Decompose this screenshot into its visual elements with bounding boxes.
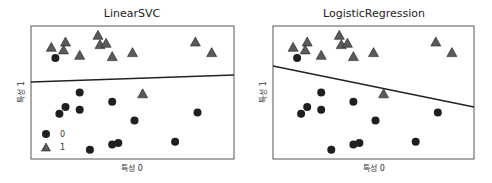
point-class-0 <box>434 109 442 117</box>
point-class-0 <box>327 146 335 154</box>
point-class-0 <box>412 138 420 146</box>
point-class-1 <box>46 42 56 51</box>
point-class-1 <box>379 89 389 98</box>
point-class-0 <box>317 106 325 114</box>
point-class-1 <box>101 38 111 47</box>
point-class-0 <box>355 139 363 147</box>
point-class-1 <box>61 37 71 46</box>
point-class-1 <box>316 50 326 59</box>
point-class-1 <box>431 37 441 46</box>
data-points <box>46 30 216 153</box>
point-class-1 <box>107 52 117 61</box>
point-class-1 <box>342 38 352 47</box>
y-axis-label: 특성 1 <box>17 81 26 103</box>
point-class-1 <box>207 48 217 57</box>
point-class-0 <box>131 116 139 124</box>
point-class-0 <box>297 110 305 118</box>
point-class-0 <box>108 98 116 106</box>
point-class-0 <box>114 139 122 147</box>
decision-boundary <box>31 75 234 82</box>
point-class-0 <box>303 103 311 111</box>
point-class-1 <box>190 37 200 46</box>
legend-label-1: 1 <box>60 143 65 152</box>
legend-circle-icon <box>42 130 50 138</box>
point-class-1 <box>138 89 148 98</box>
decision-boundary <box>273 66 474 107</box>
point-class-0 <box>62 103 70 111</box>
x-axis-label: 특성 0 <box>121 164 143 173</box>
data-points <box>288 30 457 153</box>
point-class-0 <box>55 110 63 118</box>
legend-label-0: 0 <box>60 130 65 139</box>
point-class-0 <box>76 106 84 114</box>
point-class-0 <box>372 116 380 124</box>
point-class-0 <box>293 54 301 62</box>
point-class-0 <box>171 138 179 146</box>
subplot-linearsvc: LinearSVC 특성 0 특성 1 0 1 <box>17 7 234 173</box>
point-class-0 <box>76 89 84 97</box>
point-class-1 <box>369 48 379 57</box>
point-class-0 <box>86 146 94 154</box>
point-class-0 <box>194 109 202 117</box>
y-axis-label: 특성 1 <box>259 81 268 103</box>
subplot-title: LinearSVC <box>104 7 161 20</box>
subplot-logisticregression: LogisticRegression 특성 0 특성 1 <box>259 7 474 173</box>
point-class-0 <box>317 89 325 97</box>
point-class-1 <box>334 30 344 39</box>
point-class-0 <box>349 98 357 106</box>
point-class-1 <box>288 42 298 51</box>
x-axis-label: 특성 0 <box>363 164 385 173</box>
subplot-title: LogisticRegression <box>323 7 425 20</box>
point-class-0 <box>51 54 59 62</box>
legend-triangle-icon <box>42 143 51 151</box>
point-class-1 <box>348 52 358 61</box>
point-class-1 <box>75 50 85 59</box>
legend: 0 1 <box>42 130 66 152</box>
point-class-1 <box>447 48 457 57</box>
chart-figure: LinearSVC 특성 0 특성 1 0 1 LogisticRegressi… <box>0 0 492 183</box>
point-class-1 <box>93 30 103 39</box>
point-class-1 <box>302 37 312 46</box>
point-class-1 <box>128 48 138 57</box>
